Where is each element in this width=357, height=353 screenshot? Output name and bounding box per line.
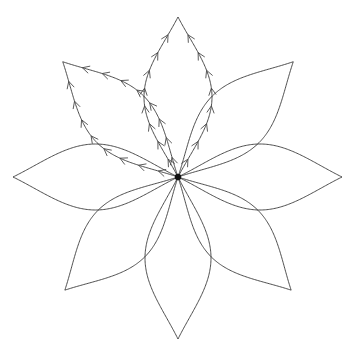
center-layer <box>175 174 181 180</box>
figure-container <box>0 0 357 353</box>
center-singularity <box>175 174 181 180</box>
rose-curve-diagram <box>0 0 357 353</box>
